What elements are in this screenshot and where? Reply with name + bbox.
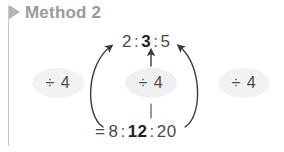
bottom-ratio-part-3: 20 <box>157 122 177 141</box>
bottom-ratio-part-1: 8 <box>108 122 118 141</box>
divide-pill-center: ÷ 4 <box>125 68 177 98</box>
diagram-canvas: Method 2 2:3:5 =8:12:20 ÷ 4 ÷ 4 <box>0 0 284 152</box>
top-ratio-part-3: 5 <box>160 32 170 51</box>
bottom-ratio-colon-2: : <box>148 122 157 141</box>
top-ratio-colon-1: : <box>132 32 141 51</box>
bottom-ratio: =8:12:20 <box>95 122 177 142</box>
bottom-ratio-part-2: 12 <box>128 122 148 141</box>
divide-pill-left: ÷ 4 <box>32 68 84 98</box>
bottom-ratio-colon-1: : <box>118 122 127 141</box>
bottom-ratio-equals: = <box>95 122 108 141</box>
flag-pole-divider <box>8 6 9 146</box>
play-triangle-icon <box>9 5 20 19</box>
page-title: Method 2 <box>25 3 101 23</box>
right-curved-arrow <box>180 47 198 127</box>
left-curved-arrow <box>91 47 110 127</box>
top-ratio-part-2: 3 <box>141 32 151 51</box>
top-ratio: 2:3:5 <box>122 32 170 52</box>
divide-pill-right: ÷ 4 <box>218 68 270 98</box>
top-ratio-part-1: 2 <box>122 32 132 51</box>
